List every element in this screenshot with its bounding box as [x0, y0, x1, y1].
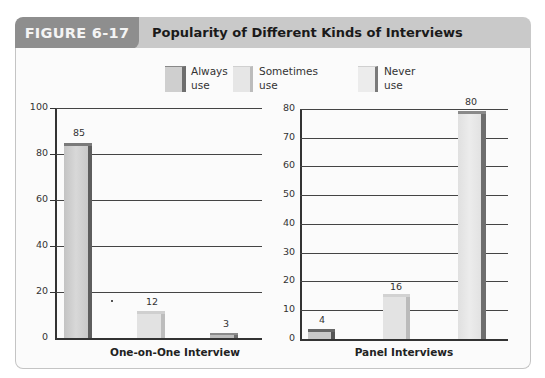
y-tick-label: 80 — [22, 147, 48, 158]
bar-top — [210, 333, 238, 335]
tick — [50, 292, 56, 293]
y-tick-label: 70 — [269, 131, 295, 142]
figure-header: FIGURE 6-17 Popularity of Different Kind… — [15, 17, 531, 49]
bar-front — [210, 335, 234, 338]
y-tick-label: 50 — [269, 188, 295, 199]
bar-value-label: 80 — [456, 96, 486, 107]
bar-top — [458, 111, 486, 114]
y-tick-label: 40 — [269, 217, 295, 228]
bar-sometimes-use — [137, 311, 167, 338]
bar-never-use — [458, 111, 488, 339]
legend-label-line1: Sometimes — [259, 64, 329, 78]
y-tick-label: 0 — [22, 331, 48, 342]
y-tick-label: 60 — [269, 159, 295, 170]
tick — [50, 108, 56, 109]
x-category-label: Panel Interviews — [304, 346, 504, 358]
bar-side — [161, 311, 165, 338]
bar-front — [137, 314, 161, 338]
bar-never-use — [210, 333, 240, 338]
bar-value-label: 12 — [137, 296, 167, 307]
gridline — [300, 109, 508, 110]
legend-swatch-never-icon — [358, 66, 378, 92]
x-axis — [300, 339, 508, 341]
bar-always-use — [308, 329, 338, 339]
stray-dot — [111, 300, 113, 302]
bar-value-label: 85 — [64, 127, 94, 138]
y-tick-label: 20 — [269, 274, 295, 285]
x-axis — [55, 338, 262, 340]
bar-top — [137, 311, 165, 314]
y-tick-label: 10 — [269, 303, 295, 314]
legend-label-line1: Never — [384, 64, 454, 78]
bar-front — [308, 332, 331, 339]
bar-front — [458, 114, 481, 339]
figure-label: FIGURE 6-17 — [15, 17, 139, 49]
bar-side — [88, 143, 92, 338]
y-tick-label: 60 — [22, 193, 48, 204]
y-tick-label: 30 — [269, 246, 295, 257]
bar-front — [64, 146, 88, 338]
y-tick-label: 0 — [269, 332, 295, 343]
tick — [50, 200, 56, 201]
gridline — [55, 108, 262, 109]
legend-label: Sometimes use — [259, 64, 329, 92]
legend-swatch-sometimes-icon — [233, 66, 253, 92]
bar-side — [406, 294, 410, 339]
tick — [50, 246, 56, 247]
y-tick-label: 100 — [22, 101, 48, 112]
bar-value-label: 3 — [211, 318, 241, 329]
y-tick-label: 80 — [269, 102, 295, 113]
bar-top — [64, 143, 92, 146]
bar-top — [308, 329, 335, 332]
x-category-label: One-on-One Interview — [75, 346, 275, 358]
legend-label-line2: use — [259, 78, 329, 92]
legend-label: Never use — [384, 64, 454, 92]
y-tick-label: 40 — [22, 239, 48, 250]
legend-swatch-always-icon — [165, 66, 186, 92]
legend-label-line2: use — [384, 78, 454, 92]
bar-always-use — [64, 143, 94, 338]
y-axis — [55, 108, 57, 339]
bar-top — [383, 294, 410, 297]
bar-sometimes-use — [383, 294, 413, 339]
bar-front — [383, 297, 406, 339]
figure-title: Popularity of Different Kinds of Intervi… — [152, 17, 463, 49]
bar-value-label: 16 — [381, 281, 411, 292]
bar-side — [481, 111, 486, 339]
tick — [50, 154, 56, 155]
y-tick-label: 20 — [22, 285, 48, 296]
bar-value-label: 4 — [307, 314, 337, 325]
